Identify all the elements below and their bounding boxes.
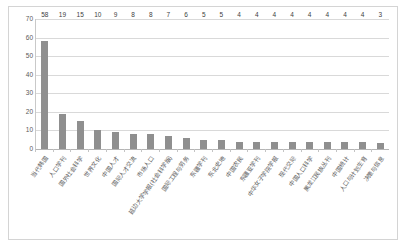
- bar-slot[interactable]: 3: [371, 19, 389, 149]
- x-label-slot: 当代韩国: [35, 153, 53, 237]
- bar-slot[interactable]: 4: [283, 19, 301, 149]
- bar-slot[interactable]: 4: [266, 19, 284, 149]
- bar[interactable]: 4: [359, 142, 366, 149]
- bar-value-label: 4: [273, 12, 277, 19]
- bar-value-label: 4: [343, 12, 347, 19]
- x-label-slot: 中国人才: [106, 153, 124, 237]
- bar[interactable]: 4: [324, 142, 331, 149]
- x-label-slot: 国际工程与劳务: [177, 153, 195, 237]
- bar[interactable]: 4: [306, 142, 313, 149]
- bar-value-label: 7: [167, 12, 171, 19]
- bar-slot[interactable]: 5: [213, 19, 231, 149]
- y-tick-label: 70: [13, 16, 33, 23]
- bar[interactable]: 9: [112, 132, 119, 149]
- bar-value-label: 4: [255, 12, 259, 19]
- y-tick-label: 60: [13, 34, 33, 41]
- y-tick-label: 30: [13, 90, 33, 97]
- bar-slot[interactable]: 4: [301, 19, 319, 149]
- bar-value-label: 5: [202, 12, 206, 19]
- x-label-slot: 中国人口科学: [301, 153, 319, 237]
- bar[interactable]: 5: [200, 140, 207, 149]
- bar[interactable]: 7: [165, 136, 172, 149]
- y-tick-label: 40: [13, 71, 33, 78]
- bar-slot[interactable]: 19: [54, 19, 72, 149]
- bar[interactable]: 5: [218, 140, 225, 149]
- bar-value-label: 9: [114, 12, 118, 19]
- bar-series: 581915109887655444444443: [36, 19, 389, 149]
- x-label-slot: 中国统计: [336, 153, 354, 237]
- bar-value-label: 10: [94, 12, 101, 19]
- bar-value-label: 58: [41, 12, 48, 19]
- bar-slot[interactable]: 15: [71, 19, 89, 149]
- bar-slot[interactable]: 7: [160, 19, 178, 149]
- x-label-slot: 现代交际: [283, 153, 301, 237]
- bar-slot[interactable]: 10: [89, 19, 107, 149]
- bar[interactable]: 4: [236, 142, 243, 149]
- bar-value-label: 4: [308, 12, 312, 19]
- x-label-slot: 黑龙江民族丛刊: [318, 153, 336, 237]
- y-tick-label: 10: [13, 127, 33, 134]
- x-label-slot: 中国农民: [230, 153, 248, 237]
- bar[interactable]: 4: [289, 142, 296, 149]
- bar-value-label: 4: [237, 12, 241, 19]
- x-category-label: 当代韩国: [30, 155, 49, 178]
- bar[interactable]: 6: [183, 138, 190, 149]
- bar-value-label: 4: [326, 12, 330, 19]
- x-label-slot: 延边大学学报(社会科学版): [159, 153, 177, 237]
- bar-slot[interactable]: 4: [319, 19, 337, 149]
- chart-frame: 706050403020100 581915109887655444444443…: [8, 6, 398, 240]
- bar[interactable]: 4: [253, 142, 260, 149]
- bar-slot[interactable]: 58: [36, 19, 54, 149]
- x-label-slot: 人口学刊: [53, 153, 71, 237]
- x-label-slot: 决策与信息: [371, 153, 389, 237]
- bar-slot[interactable]: 6: [177, 19, 195, 149]
- bar[interactable]: 8: [147, 134, 154, 149]
- bar-value-label: 15: [77, 12, 84, 19]
- bar[interactable]: 58: [41, 41, 48, 149]
- y-tick-label: 0: [13, 146, 33, 153]
- y-tick-label: 50: [13, 53, 33, 60]
- bar-value-label: 6: [184, 12, 188, 19]
- bar-slot[interactable]: 9: [107, 19, 125, 149]
- bar-value-label: 19: [59, 12, 66, 19]
- bar-slot[interactable]: 8: [142, 19, 160, 149]
- y-tick-label: 20: [13, 109, 33, 116]
- bar[interactable]: 8: [130, 134, 137, 149]
- bar-value-label: 8: [131, 12, 135, 19]
- x-label-slot: 国外社会科学: [70, 153, 88, 237]
- bar-slot[interactable]: 5: [195, 19, 213, 149]
- bar-value-label: 4: [361, 12, 365, 19]
- bar-slot[interactable]: 4: [354, 19, 372, 149]
- bar-slot[interactable]: 4: [230, 19, 248, 149]
- x-label-slot: 世界文化: [88, 153, 106, 237]
- bar[interactable]: 15: [77, 121, 84, 149]
- bar-value-label: 5: [220, 12, 224, 19]
- bar-slot[interactable]: 8: [124, 19, 142, 149]
- bar[interactable]: 19: [59, 114, 66, 149]
- bar-slot[interactable]: 4: [336, 19, 354, 149]
- chart-plot-wrapper: 706050403020100 581915109887655444444443…: [9, 7, 399, 241]
- bar[interactable]: 4: [341, 142, 348, 149]
- bar-value-label: 8: [149, 12, 153, 19]
- bar[interactable]: 4: [271, 142, 278, 149]
- bar-value-label: 3: [378, 12, 382, 19]
- x-label-slot: 东北史地: [212, 153, 230, 237]
- x-label-slot: 东疆学刊: [194, 153, 212, 237]
- plot-area: 581915109887655444444443: [35, 19, 389, 149]
- bar[interactable]: 10: [94, 130, 101, 149]
- x-label-slot: 人口与计划生育: [354, 153, 372, 237]
- x-axis-labels: 当代韩国人口学刊国外社会科学世界文化中国人才国际人才交流市场人口延边大学学报(社…: [35, 153, 389, 237]
- x-label-slot: 中华女子学院学报: [265, 153, 283, 237]
- bar-slot[interactable]: 4: [248, 19, 266, 149]
- y-axis: 706050403020100: [13, 19, 33, 149]
- bar-value-label: 4: [290, 12, 294, 19]
